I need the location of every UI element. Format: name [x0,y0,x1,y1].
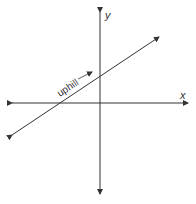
uphill-line [12,37,159,135]
coordinate-diagram: x y uphill [0,0,196,204]
uphill-label: uphill [55,76,81,98]
uphill-arrow [78,72,92,79]
y-axis-label: y [104,9,112,21]
x-axis-label: x [179,89,186,101]
